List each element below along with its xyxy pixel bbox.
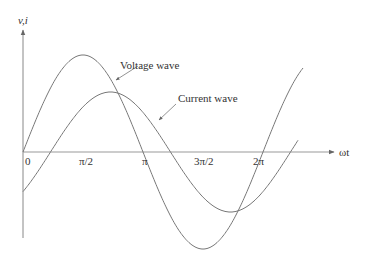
x-axis-label: ωt <box>339 146 349 158</box>
x-tick-2pi: 2π <box>253 155 264 167</box>
sine-wave-diagram: v,i ωt 0 π/2 π 3π/2 2π Voltage wave Curr… <box>0 0 368 258</box>
waveform-canvas <box>0 0 368 258</box>
x-tick-3pi-half: 3π/2 <box>194 155 214 167</box>
x-tick-pi-half: π/2 <box>79 155 93 167</box>
x-tick-pi: π <box>142 155 148 167</box>
voltage-wave-label: Voltage wave <box>120 59 179 71</box>
y-axis-label: v,i <box>18 14 28 26</box>
current-wave-label: Current wave <box>178 92 238 104</box>
current-pointer-arrow <box>159 104 176 120</box>
x-tick-0: 0 <box>25 155 31 167</box>
